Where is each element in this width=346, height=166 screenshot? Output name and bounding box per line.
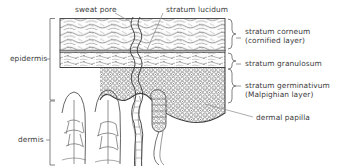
dermis-region xyxy=(62,90,121,164)
corneum-brace xyxy=(228,19,236,49)
stratum-granulosum-layer xyxy=(60,52,225,67)
label-stratum-corneum-line2: (cornified layer) xyxy=(245,36,305,45)
label-stratum-granulosum: stratum granulosum xyxy=(245,59,322,68)
label-stratum-lucidum: stratum lucidum xyxy=(166,5,228,14)
stratum-corneum-layer xyxy=(60,19,225,51)
right-braces xyxy=(228,19,241,103)
label-sweat-pore: sweat pore xyxy=(75,5,117,14)
dermis-bracket xyxy=(50,101,55,165)
label-dermis: dermis xyxy=(18,135,44,144)
label-epidermis: epidermis xyxy=(10,54,47,63)
epidermis-bracket xyxy=(50,19,55,101)
label-stratum-germinativum-line2: (Malpighian layer) xyxy=(245,90,313,99)
granulosum-brace xyxy=(228,53,236,69)
label-dermal-papilla: dermal papilla xyxy=(256,113,310,122)
germinativum-brace xyxy=(228,69,236,103)
skin-cross-section-figure: sweat pore stratum lucidum stratum corne… xyxy=(0,0,346,166)
label-stratum-germinativum-line1: stratum germinativum xyxy=(245,81,330,90)
label-stratum-corneum-line1: stratum corneum xyxy=(245,27,310,36)
sweat-gland xyxy=(151,90,167,165)
left-brackets xyxy=(46,19,55,166)
